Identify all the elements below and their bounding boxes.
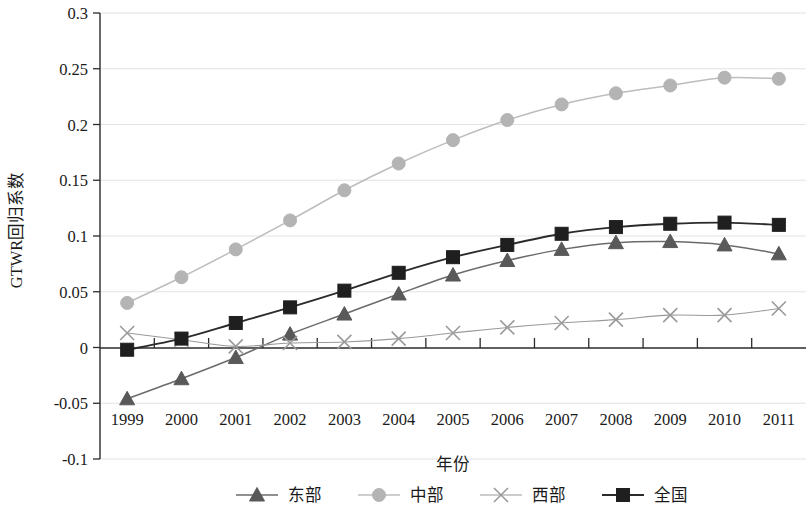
legend-item-全国[interactable]: 全国 xyxy=(602,486,688,505)
x-axis-tick-label: 2003 xyxy=(328,410,361,429)
legend-marker-square-icon xyxy=(617,489,630,502)
data-point-marker xyxy=(391,286,406,300)
data-point-marker xyxy=(772,72,785,85)
data-point-marker xyxy=(121,343,134,356)
series-layer xyxy=(120,71,787,405)
data-point-marker xyxy=(392,157,405,170)
legend-item-中部[interactable]: 中部 xyxy=(358,486,444,505)
y-axis-tick-label: -0.1 xyxy=(62,450,88,469)
legend-label: 全国 xyxy=(654,486,688,505)
y-axis-tick-label: 0.3 xyxy=(67,4,88,23)
x-axis-tick-label: 1999 xyxy=(111,410,144,429)
data-point-marker xyxy=(501,238,514,251)
data-point-marker xyxy=(446,268,461,282)
data-point-marker xyxy=(175,332,188,345)
legend-label: 中部 xyxy=(410,486,444,505)
series-4 xyxy=(121,216,786,356)
legend-label: 西部 xyxy=(532,486,566,505)
x-axis-tick-label: 2011 xyxy=(763,410,795,429)
data-point-marker xyxy=(447,134,460,147)
legend-marker-circle-icon xyxy=(373,489,386,502)
x-axis-tick-label: 2000 xyxy=(165,410,198,429)
y-axis-tick-label: 0.25 xyxy=(59,60,88,79)
data-point-marker xyxy=(174,371,189,385)
data-point-marker xyxy=(229,316,242,329)
y-axis-tick-label: 0.2 xyxy=(67,116,88,135)
legend-item-西部[interactable]: 西部 xyxy=(480,486,566,505)
x-axis-tick-label: 2006 xyxy=(491,410,524,429)
data-point-marker xyxy=(337,307,352,321)
chart-legend: 东部中部西部全国 xyxy=(236,486,688,505)
data-point-marker xyxy=(772,301,786,315)
x-axis-tick-label: 2002 xyxy=(274,410,307,429)
series-markers xyxy=(121,216,786,356)
data-point-marker xyxy=(120,326,134,340)
series-line xyxy=(127,241,779,398)
data-point-marker xyxy=(555,227,568,240)
data-point-marker xyxy=(121,296,134,309)
x-axis-tick-label: 2004 xyxy=(382,410,415,429)
chart-container: 0.30.250.20.150.10.050-0.05-0.1 19992000… xyxy=(0,0,809,515)
data-point-marker xyxy=(664,79,677,92)
legend-label: 东部 xyxy=(288,486,322,505)
y-axis-tick-labels: 0.30.250.20.150.10.050-0.05-0.1 xyxy=(54,4,88,469)
data-point-marker xyxy=(284,301,297,314)
data-point-marker xyxy=(501,114,514,127)
x-axis-tick-label: 2008 xyxy=(599,410,632,429)
data-point-marker xyxy=(120,391,135,405)
y-axis-title: GTWR回归系数 xyxy=(7,172,26,289)
data-point-marker xyxy=(664,217,677,230)
data-point-marker xyxy=(392,266,405,279)
data-point-marker xyxy=(447,251,460,264)
data-point-marker xyxy=(338,284,351,297)
y-axis-tick-label: 0.1 xyxy=(67,227,88,246)
y-axis-tick-label: 0 xyxy=(80,339,88,358)
x-axis-tick-label: 2005 xyxy=(437,410,470,429)
data-point-marker xyxy=(718,216,731,229)
data-point-marker xyxy=(284,214,297,227)
data-point-marker xyxy=(175,271,188,284)
x-axis-tick-label: 2010 xyxy=(708,410,741,429)
y-axis-ticks xyxy=(93,13,100,459)
x-axis-tick-labels: 1999200020012002200320042005200620072008… xyxy=(111,410,795,429)
y-axis-tick-label: 0.15 xyxy=(59,171,88,190)
y-axis-tick-label: 0.05 xyxy=(59,283,88,302)
legend-item-东部[interactable]: 东部 xyxy=(236,486,322,505)
series-line xyxy=(127,308,779,346)
data-point-marker xyxy=(555,98,568,111)
data-point-marker xyxy=(772,218,785,231)
x-axis-title: 年份 xyxy=(436,455,470,474)
data-point-marker xyxy=(609,221,622,234)
x-axis-tick-label: 2007 xyxy=(545,410,578,429)
gtwr-coefficient-line-chart: 0.30.250.20.150.10.050-0.05-0.1 19992000… xyxy=(0,0,809,515)
data-point-marker xyxy=(718,71,731,84)
data-point-marker xyxy=(338,184,351,197)
x-axis-tick-label: 2001 xyxy=(219,410,252,429)
data-point-marker xyxy=(229,243,242,256)
data-point-marker xyxy=(609,87,622,100)
x-axis-tick-label: 2009 xyxy=(654,410,687,429)
y-axis-tick-label: -0.05 xyxy=(54,394,88,413)
